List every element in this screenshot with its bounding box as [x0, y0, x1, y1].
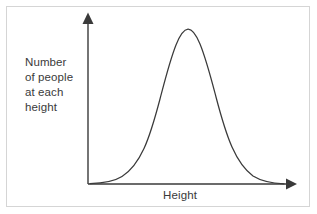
normal-distribution-curve — [90, 29, 284, 184]
y-axis-label: Number of people at each height — [25, 55, 87, 115]
x-axis-label: Height — [120, 188, 240, 203]
arrow-up-icon — [83, 13, 94, 25]
bell-curve-figure: Number of people at each height Height — [0, 0, 317, 214]
arrow-right-icon — [286, 179, 297, 190]
